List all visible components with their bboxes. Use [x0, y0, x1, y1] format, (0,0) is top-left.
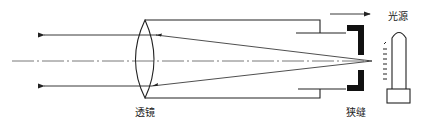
ray-top — [156, 35, 372, 61]
light-emission-lines — [383, 42, 387, 79]
collimator-tube-bottom — [145, 89, 320, 98]
lens-label: 透镜 — [135, 104, 155, 119]
slit-label: 狭缝 — [346, 104, 366, 119]
ray-bottom — [152, 61, 372, 86]
lamp-base — [387, 89, 410, 103]
slit-holder-top — [347, 25, 364, 55]
collimator-tube — [145, 20, 320, 33]
slit-holder-bottom — [347, 70, 364, 91]
lamp-bulb — [392, 33, 406, 90]
light-source-label: 光源 — [388, 8, 408, 23]
